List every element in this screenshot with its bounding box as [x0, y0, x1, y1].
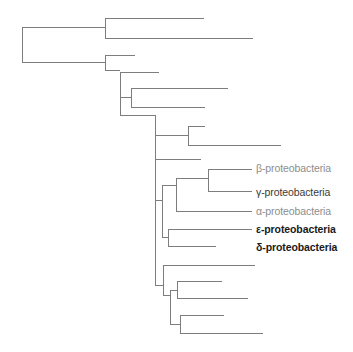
vertical-branch-group [23, 18, 209, 333]
phylogenetic-tree-figure: β-proteobacteriaγ-proteobacteriaα-proteo… [0, 0, 353, 352]
horizontal-branch-group [22, 19, 281, 334]
tree-branches-svg [0, 0, 353, 352]
